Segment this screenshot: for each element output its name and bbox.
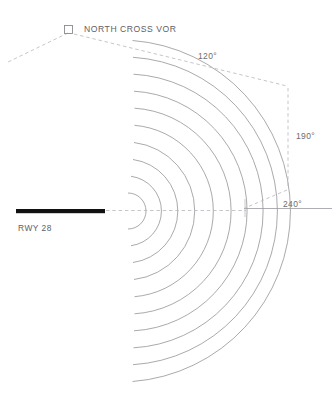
- vor-arc-diagram: NORTH CROSS VOR RWY 28 120° 190° 240°: [0, 0, 332, 394]
- runway-bar: [16, 209, 105, 213]
- runway-label: RWY 28: [18, 224, 52, 232]
- radial-240-label: 240°: [283, 200, 302, 209]
- dme-arc: [128, 193, 146, 229]
- vor-station-label: NORTH CROSS VOR: [84, 25, 177, 34]
- boundary-left-leg: [8, 33, 68, 62]
- dme-arc: [133, 41, 291, 382]
- dme-arc: [135, 108, 232, 314]
- dme-arc-group: [128, 41, 290, 382]
- radial-240-line: [245, 190, 287, 208]
- radial-120-line: [74, 34, 287, 86]
- radial-120-label: 120°: [198, 52, 217, 61]
- diagram-canvas: [0, 0, 332, 394]
- dme-arc: [133, 160, 178, 263]
- vor-square-icon: [65, 26, 73, 34]
- dme-arc: [134, 91, 247, 331]
- dme-arc: [134, 143, 195, 280]
- radial-190-label: 190°: [296, 132, 315, 141]
- dme-arc: [133, 57, 277, 364]
